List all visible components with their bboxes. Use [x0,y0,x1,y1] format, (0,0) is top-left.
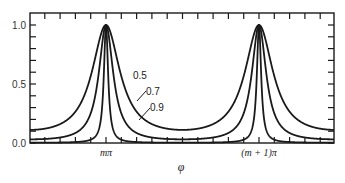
y-tick-label: 0.5 [12,79,26,90]
axis-ticks [30,13,334,143]
x-axis-title: φ [178,160,185,174]
x-tick-label: mπ [100,147,113,158]
curve-R-0.7 [30,25,334,139]
transmission-curves [30,25,334,143]
leader-line [139,108,150,120]
y-tick-label: 0.0 [12,138,26,149]
plot-frame [30,13,334,143]
series-label-0.5: 0.5 [133,70,147,81]
x-tick-label: (m + 1)π [241,147,278,159]
curve-R-0.5 [30,25,334,130]
leader-line [137,91,146,101]
y-tick-labels: 0.00.51.0 [12,20,26,149]
x-tick-labels: mπ(m + 1)π [100,147,278,159]
series-label-0.9: 0.9 [150,102,164,113]
airy-transmission-chart: 0.00.51.0 mπ(m + 1)π 0.50.70.9 φ [0,0,345,183]
series-label-0.7: 0.7 [146,86,160,97]
y-tick-label: 1.0 [12,20,26,31]
curve-R-0.9 [30,25,334,143]
